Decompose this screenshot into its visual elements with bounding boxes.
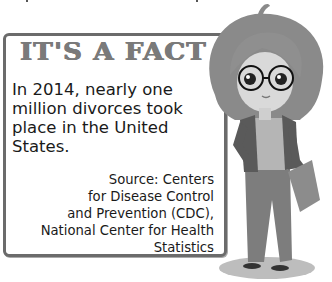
cutoff-text-fragment: [20, 0, 220, 2]
cartoon-girl-illustration: [200, 0, 332, 282]
fact-source: Source: Centers for Disease Control and …: [41, 171, 214, 256]
fact-body-line: States.: [12, 137, 212, 156]
pants: [245, 168, 292, 262]
shoe-right: [271, 265, 289, 271]
source-line: Source: Centers: [41, 171, 214, 188]
source-line: for Disease Control: [41, 188, 214, 205]
source-line: Statistics: [41, 239, 214, 256]
fact-body: In 2014, nearly one million divorces too…: [12, 80, 212, 156]
source-line: and Prevention (CDC),: [41, 205, 214, 222]
ground-shadow: [219, 257, 315, 279]
fact-title: IT'S A FACT: [20, 38, 207, 66]
source-line: National Center for Health: [41, 222, 214, 239]
fact-body-line: In 2014, nearly one: [12, 80, 212, 99]
eye-left: [244, 73, 256, 85]
jacket-left: [240, 115, 258, 172]
neck: [259, 108, 271, 120]
eye-right: [275, 73, 287, 85]
fact-body-line: place in the United: [12, 118, 212, 137]
shoe-left: [243, 263, 261, 269]
fact-body-line: million divorces took: [12, 99, 212, 118]
